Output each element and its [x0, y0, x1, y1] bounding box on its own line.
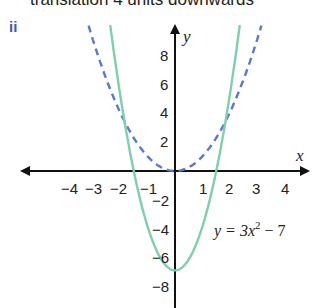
x-tick-label: 1: [199, 180, 207, 197]
y-tick-label: 6: [160, 76, 168, 93]
x-axis-label: x: [295, 146, 304, 165]
y-tick-label: −2: [152, 192, 169, 209]
graph: y x −4 −3 −2 −1 1 2 3 4 8 6 4 2 −2 −4 −6…: [0, 0, 319, 308]
y-tick-label: −4: [152, 221, 169, 238]
y-tick-label: 4: [160, 104, 168, 121]
x-tick-label: −2: [110, 180, 127, 197]
y-tick-label: −8: [152, 278, 169, 295]
y-tick-label: 8: [160, 47, 168, 64]
x-tick-label: 2: [225, 180, 233, 197]
x-tick-label: −4: [61, 180, 78, 197]
x-tick-label: 3: [252, 180, 260, 197]
x-tick-label: 4: [281, 180, 289, 197]
y-tick-label: 2: [160, 133, 168, 150]
y-tick-label: −6: [152, 249, 169, 266]
x-tick-label: −3: [85, 180, 102, 197]
y-axis-label: y: [181, 27, 191, 46]
equation-label: y = 3x2 − 7: [212, 219, 286, 240]
